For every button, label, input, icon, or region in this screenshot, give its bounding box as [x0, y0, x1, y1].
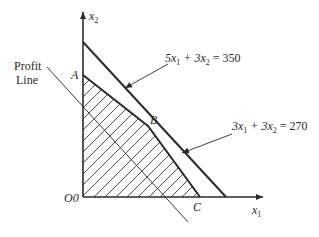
- constraint-label-c2: 3x1 + 3x2 = 270: [231, 119, 308, 135]
- x-axis-label: x1: [251, 203, 261, 219]
- point-c-label: C: [193, 200, 202, 214]
- label-arrow-c2: [182, 134, 232, 153]
- feasible-region-hatch: [83, 0, 319, 197]
- linear-programming-diagram: x2 x1 O0 A B C 5x1 + 3x2 = 350 3x1 + 3x2…: [0, 0, 319, 237]
- origin-label: O0: [64, 191, 79, 205]
- point-a-label: A: [70, 68, 79, 82]
- label-arrow-c1: [125, 64, 168, 88]
- profit-line-label: Profit Line: [14, 59, 44, 87]
- y-axis-label: x2: [88, 9, 98, 25]
- constraint-label-c1: 5x1 + 3x2 = 350: [165, 51, 241, 67]
- point-b-label: B: [150, 113, 158, 127]
